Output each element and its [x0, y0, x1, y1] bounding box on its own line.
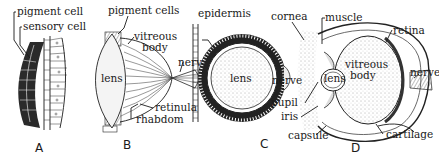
label-lens-c: lens: [230, 72, 252, 84]
label-lens-b: lens: [101, 72, 123, 84]
label-muscle: muscle: [325, 11, 363, 23]
figure-caption-a: A: [35, 141, 44, 155]
label-vitreous-body: body: [142, 41, 168, 53]
figure-caption-c: C: [260, 137, 268, 151]
figure-b: pigment cells vitreous body lens nerve r…: [96, 4, 209, 152]
label-epidermis: epidermis: [198, 7, 251, 19]
figure-caption-d: D: [351, 141, 360, 155]
label-cornea: cornea: [271, 10, 307, 22]
figure-c: epidermis lens nerve C: [193, 7, 302, 151]
label-nerve-c: nerve: [272, 74, 302, 86]
label-sensory-cell: sensory cell: [23, 20, 87, 32]
label-pigment-cells: pigment cells: [108, 4, 180, 16]
figure-a: pigment cell sensory cell A: [14, 5, 87, 155]
label-retina: retina: [393, 24, 425, 36]
label-rhabdom: rhabdom: [136, 113, 184, 125]
figure-caption-b: B: [123, 138, 131, 152]
label-body-d: body: [350, 69, 376, 81]
label-lens-d: lens: [324, 72, 346, 84]
label-pigment-cell: pigment cell: [17, 5, 84, 17]
label-iris: iris: [281, 110, 298, 122]
label-retinula: retinula: [155, 101, 197, 113]
label-pupil: pupil: [271, 96, 299, 108]
label-cartilage: cartilage: [386, 128, 433, 140]
label-capsule: capsule: [288, 129, 329, 141]
label-nerve-d: nerve: [410, 66, 439, 78]
eye-evolution-diagram: pigment cell sensory cell A pigment cell…: [0, 0, 439, 157]
sensory-cell-rows: [44, 38, 67, 128]
